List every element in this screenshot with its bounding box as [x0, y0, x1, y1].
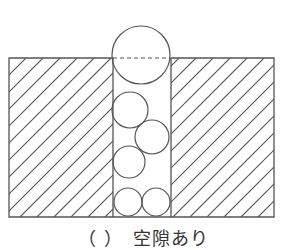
hatch-line [0, 58, 94, 217]
hatched-wall-right [0, 58, 287, 217]
particle-circles [112, 26, 170, 216]
hatch-line [20, 58, 179, 217]
hatch-line [0, 58, 9, 217]
hatched-wall-left [0, 58, 287, 217]
particle-circle [142, 188, 170, 216]
particle-circle [112, 26, 170, 84]
hatch-line [275, 58, 287, 217]
hatch-line [224, 58, 287, 217]
particle-circle [113, 146, 145, 178]
figure-caption: （ ） 空隙あり [0, 228, 287, 250]
hatch-line [258, 58, 287, 217]
particle-circle [135, 120, 169, 154]
hatch-line [0, 58, 145, 217]
hatch-line [0, 58, 9, 217]
hatch-line [0, 58, 26, 217]
hatch-line [275, 58, 287, 217]
particle-circle [114, 188, 142, 216]
hatch-line [0, 58, 26, 217]
hatch-line [190, 58, 287, 217]
hatch-line [0, 58, 145, 217]
hatch-line [190, 58, 287, 217]
hatch-line [258, 58, 287, 217]
hatch-line [224, 58, 287, 217]
hatch-line [156, 58, 287, 217]
hatch-line [156, 58, 287, 217]
